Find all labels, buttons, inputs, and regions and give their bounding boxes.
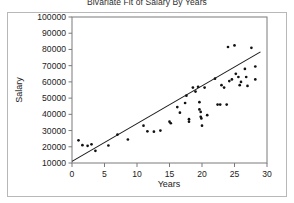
x-axis-ticks: 051015202530 [70, 163, 272, 179]
plot-frame-rect [72, 17, 267, 163]
scatter-point [77, 139, 80, 142]
scatter-point [185, 94, 188, 97]
bivariate-fit-chart: Bivariate Fit of Salary By Years 1000020… [0, 0, 294, 203]
x-tick-label: 30 [262, 169, 272, 179]
scatter-point [225, 103, 228, 106]
scatter-point [206, 114, 209, 117]
scatter-point [214, 77, 217, 80]
scatter-point [176, 106, 179, 109]
scatter-point [237, 76, 240, 79]
scatter-point [188, 118, 191, 121]
y-tick-label: 10000 [42, 158, 66, 168]
y-tick-label: 80000 [42, 44, 66, 54]
scatter-point [199, 111, 202, 114]
scatter-point [197, 85, 200, 88]
scatter-point [220, 84, 223, 87]
y-tick-label: 70000 [42, 61, 66, 71]
x-tick-label: 15 [165, 169, 175, 179]
scatter-point [203, 86, 206, 89]
x-axis-title: Years [158, 179, 181, 189]
y-tick-label: 40000 [42, 109, 66, 119]
y-tick-label: 50000 [42, 93, 66, 103]
scatter-point [233, 44, 236, 47]
scatter-point [227, 46, 230, 49]
scatter-point [231, 78, 234, 81]
scatter-point [244, 68, 247, 71]
scatter-point [219, 103, 222, 106]
scatter-point [116, 133, 119, 136]
scatter-point [198, 101, 201, 104]
scatter-point [228, 80, 231, 83]
scatter-point [153, 130, 156, 133]
scatter-point [90, 143, 93, 146]
scatter-point [250, 46, 253, 49]
x-tick-label: 20 [197, 169, 207, 179]
scatter-point [254, 65, 257, 68]
y-tick-label: 100000 [37, 12, 66, 22]
plot-frame [72, 17, 267, 163]
scatter-points [77, 44, 257, 152]
scatter-point [200, 117, 203, 120]
scatter-point [234, 72, 237, 75]
scatter-point [127, 138, 130, 141]
x-tick-label: 5 [102, 169, 107, 179]
scatter-point [159, 129, 162, 132]
scatter-point [107, 144, 110, 147]
scatter-point [194, 90, 197, 93]
scatter-point [142, 124, 145, 127]
scatter-point [94, 149, 97, 152]
scatter-point [223, 86, 226, 89]
x-tick-label: 10 [132, 169, 142, 179]
scatter-point [81, 144, 84, 147]
y-tick-label: 20000 [42, 142, 66, 152]
scatter-point [245, 76, 248, 79]
scatter-point [146, 130, 149, 133]
scatter-point [192, 86, 195, 89]
scatter-point [86, 144, 89, 147]
scatter-point [246, 85, 249, 88]
x-tick-label: 25 [230, 169, 240, 179]
scatter-point [240, 81, 243, 84]
regression-line [72, 52, 261, 162]
scatter-point [169, 122, 172, 125]
y-tick-label: 60000 [42, 77, 66, 87]
scatter-point [179, 111, 182, 114]
scatter-point [216, 103, 219, 106]
scatter-point [184, 102, 187, 105]
y-axis-title: Salary [14, 77, 24, 103]
scatter-point [238, 84, 241, 87]
scatter-point [188, 120, 191, 123]
fit-line-segment [72, 52, 261, 162]
scatter-point [198, 108, 201, 111]
plot-canvas: 1000020000300004000050000600007000080000… [0, 0, 294, 203]
scatter-point [201, 124, 204, 127]
y-tick-label: 90000 [42, 28, 66, 38]
y-axis-ticks: 1000020000300004000050000600007000080000… [37, 12, 72, 168]
scatter-point [254, 78, 257, 81]
x-tick-label: 0 [70, 169, 75, 179]
y-tick-label: 30000 [42, 126, 66, 136]
